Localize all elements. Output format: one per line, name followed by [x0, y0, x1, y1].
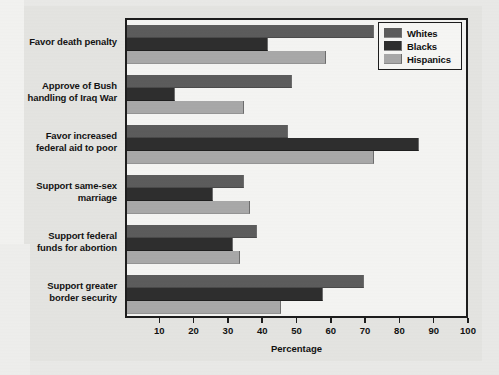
bar-hispanics	[127, 301, 281, 314]
category-label-line1: Support federal	[0, 230, 117, 243]
legend-swatch-whites	[384, 28, 402, 38]
category-label-line1: Support greater	[0, 280, 117, 293]
x-axis-tick	[227, 318, 229, 323]
x-axis-title: Percentage	[125, 343, 468, 354]
category-label-line2: handling of Iraq War	[0, 92, 117, 105]
bar-whites	[127, 25, 374, 38]
x-axis-tick-label: 30	[213, 325, 243, 336]
bar-whites	[127, 225, 257, 238]
category-label: Favor death penalty	[0, 36, 117, 49]
category-label-line2: marriage	[0, 192, 117, 205]
category-label: Approve of Bushhandling of Iraq War	[0, 80, 117, 105]
bar-blacks	[127, 188, 213, 201]
category-label: Support federalfunds for abortion	[0, 230, 117, 255]
x-axis-tick	[364, 318, 366, 323]
category-label-line1: Favor death penalty	[0, 36, 117, 49]
bar-hispanics	[127, 51, 326, 64]
bar-blacks	[127, 138, 419, 151]
category-label-line2: funds for abortion	[0, 242, 117, 255]
category-label-line1: Favor increased	[0, 130, 117, 143]
bar-blacks	[127, 238, 233, 251]
category-label-line1: Support same-sex	[0, 180, 117, 193]
x-axis-tick	[296, 318, 298, 323]
category-label: Favor increasedfederal aid to poor	[0, 130, 117, 155]
category-label: Support greaterborder security	[0, 280, 117, 305]
x-axis-tick	[467, 318, 469, 323]
x-axis-tick	[159, 318, 161, 323]
bar-blacks	[127, 288, 323, 301]
legend-label-whites: Whites	[407, 28, 438, 39]
bar-hispanics	[127, 101, 244, 114]
bar-blacks	[127, 88, 175, 101]
x-axis-tick-label: 100	[453, 325, 483, 336]
category-label: Support same-sexmarriage	[0, 180, 117, 205]
legend-item-hispanics: Hispanics	[384, 53, 456, 65]
chart-legend: Whites Blacks Hispanics	[378, 22, 462, 70]
bar-chart: Favor death penaltyApprove of Bushhandli…	[0, 0, 499, 375]
category-label-line1: Approve of Bush	[0, 80, 117, 93]
legend-label-blacks: Blacks	[407, 41, 437, 52]
x-axis-tick-label: 90	[419, 325, 449, 336]
x-axis-tick	[433, 318, 435, 323]
x-axis-tick-label: 20	[179, 325, 209, 336]
x-axis-tick-label: 50	[282, 325, 312, 336]
legend-item-blacks: Blacks	[384, 40, 456, 52]
x-axis-tick-label: 80	[384, 325, 414, 336]
bar-hispanics	[127, 251, 240, 264]
x-axis-tick	[193, 318, 195, 323]
bar-whites	[127, 175, 244, 188]
bar-group	[127, 175, 466, 214]
x-axis-tick	[261, 318, 263, 323]
x-axis-tick-label: 60	[316, 325, 346, 336]
bar-hispanics	[127, 201, 250, 214]
x-axis-tick	[330, 318, 332, 323]
bar-group	[127, 225, 466, 264]
legend-swatch-hispanics	[384, 54, 402, 64]
legend-swatch-blacks	[384, 41, 402, 51]
bar-blacks	[127, 38, 268, 51]
bar-group	[127, 275, 466, 314]
legend-label-hispanics: Hispanics	[407, 54, 451, 65]
category-label-line2: federal aid to poor	[0, 142, 117, 155]
x-axis-tick	[399, 318, 401, 323]
bar-whites	[127, 75, 292, 88]
bar-hispanics	[127, 151, 374, 164]
bar-whites	[127, 275, 364, 288]
x-axis-tick-label: 10	[144, 325, 174, 336]
legend-item-whites: Whites	[384, 27, 456, 39]
x-axis-tick-label: 70	[350, 325, 380, 336]
bar-group	[127, 75, 466, 114]
x-axis-tick-label: 40	[247, 325, 277, 336]
bar-group	[127, 125, 466, 164]
bar-whites	[127, 125, 288, 138]
category-label-line2: border security	[0, 292, 117, 305]
